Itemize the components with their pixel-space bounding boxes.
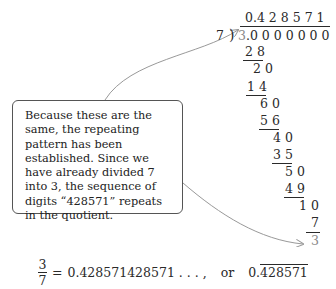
bracket: ): [229, 28, 234, 42]
step-remainder: 2 0: [253, 62, 273, 76]
step-subtract: 5 6: [260, 114, 280, 128]
repeating-block: 428571: [260, 264, 308, 280]
equals-sign: =: [52, 265, 62, 280]
repeating-prefix: 0.: [248, 265, 260, 280]
fraction: 3 7: [38, 258, 47, 287]
or-label: or: [221, 265, 235, 280]
final-remainder: 3: [311, 234, 319, 248]
dividend-rest: .0 0 0 0 0 0 0: [246, 28, 329, 43]
step-subtract: 2 8: [245, 45, 265, 59]
divisor: 7: [216, 29, 224, 43]
dividend-first-digit: 3: [238, 28, 246, 43]
step-remainder: 1 0: [299, 199, 319, 213]
repeating-decimal: 0.428571: [248, 265, 308, 280]
denominator: 7: [39, 274, 47, 287]
step-subtract: 3 5: [273, 148, 293, 162]
result-equation: 3 7 = 0.428571428571 . . . , or 0.428571: [38, 258, 308, 287]
callout-box: Because these are the same, the repeatin…: [12, 100, 183, 214]
callout-text: Because these are the same, the repeatin…: [25, 109, 174, 223]
quotient: 0.4 2 8 5 7 1: [245, 11, 325, 25]
step-subtract: 1 4: [247, 80, 267, 94]
step-remainder: 4 0: [273, 131, 293, 145]
decimal-expansion: 0.428571428571 . . . ,: [67, 265, 206, 280]
dividend: 3.0 0 0 0 0 0 0: [238, 29, 329, 43]
step-remainder: 6 0: [260, 97, 280, 111]
step-subtract: 7: [311, 216, 319, 230]
division-bar: [240, 26, 330, 27]
step-remainder: 5 0: [285, 165, 305, 179]
step-subtract: 4 9: [285, 182, 305, 196]
numerator: 3: [39, 258, 47, 271]
